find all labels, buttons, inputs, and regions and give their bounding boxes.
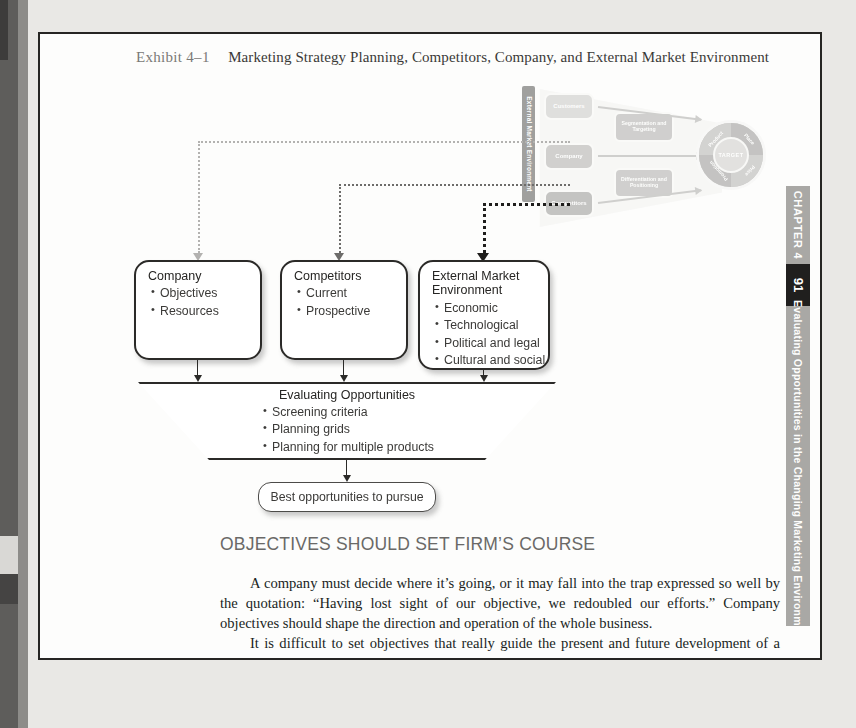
paragraph: A company must decide where it’s going, … bbox=[220, 574, 780, 634]
node-external-title: External Market Environment bbox=[420, 262, 548, 299]
chapter-tab-top: CHAPTER 4 bbox=[786, 186, 810, 264]
connector-company-horizontal bbox=[198, 141, 570, 143]
running-title-tab: Evaluating Opportunities in the Changing… bbox=[786, 306, 810, 626]
node-company[interactable]: Company Objectives Resources bbox=[134, 260, 262, 360]
list-item: Objectives bbox=[160, 285, 260, 303]
exhibit-label: Exhibit 4–1 bbox=[136, 49, 210, 65]
connector-competitors-vertical bbox=[339, 184, 341, 253]
hero-box-company: Company bbox=[544, 143, 594, 170]
list-item: Cultural and social bbox=[444, 352, 548, 370]
list-item: Political and legal bbox=[444, 335, 548, 353]
running-title: Evaluating Opportunities in the Changing… bbox=[792, 300, 804, 632]
outcome-feed-arrow bbox=[343, 475, 351, 482]
node-external-market-environment[interactable]: External Market Environment Economic Tec… bbox=[418, 260, 550, 370]
connector-external-horizontal bbox=[483, 203, 570, 206]
book-edge-light-patch bbox=[0, 536, 18, 574]
funnel-list: Screening criteria Planning grids Planni… bbox=[260, 404, 434, 456]
funnel-title: Evaluating Opportunities bbox=[138, 388, 556, 402]
exhibit-title: Marketing Strategy Planning, Competitors… bbox=[228, 49, 769, 65]
list-item: Economic bbox=[444, 300, 548, 318]
node-external-title-line2: Environment bbox=[432, 283, 502, 297]
book-edge-dark-patch bbox=[0, 574, 18, 604]
connector-competitors-horizontal bbox=[339, 184, 570, 186]
funnel-feed-line-competitors bbox=[343, 360, 344, 375]
list-item: Prospective bbox=[306, 303, 406, 321]
outcome-feed-line bbox=[346, 460, 347, 475]
marketing-strategy-graphic: External Market Environment Customers Co… bbox=[522, 86, 774, 230]
funnel-feed-arrow-company bbox=[194, 375, 202, 382]
list-item: Current bbox=[306, 285, 406, 303]
book-edge-mid bbox=[18, 0, 28, 728]
node-competitors-list: Current Prospective bbox=[282, 285, 406, 320]
page-root: Exhibit 4–1 Marketing Strategy Planning,… bbox=[0, 0, 856, 728]
hero-box-customers: Customers bbox=[544, 93, 594, 120]
chapter-tab-label: CHAPTER 4 bbox=[792, 191, 804, 260]
hero-box-segmentation: Segmentation and Targeting bbox=[614, 112, 674, 142]
list-item: Resources bbox=[160, 303, 260, 321]
node-best-opportunities[interactable]: Best opportunities to pursue bbox=[258, 482, 436, 512]
book-page-sheet: Exhibit 4–1 Marketing Strategy Planning,… bbox=[38, 32, 822, 660]
target-ring: Product Place Promotion Price TARGET bbox=[696, 120, 766, 190]
list-item: Technological bbox=[444, 317, 548, 335]
node-company-list: Objectives Resources bbox=[136, 285, 260, 320]
section-heading: OBJECTIVES SHOULD SET FIRM’S COURSE bbox=[220, 534, 595, 555]
book-edge-corner bbox=[0, 0, 8, 60]
target-center-label: TARGET bbox=[713, 137, 749, 173]
list-item: Planning grids bbox=[272, 421, 434, 438]
funnel-feed-line-company bbox=[197, 360, 198, 375]
paragraph: It is difficult to set objectives that r… bbox=[220, 634, 780, 660]
list-item: Screening criteria bbox=[272, 404, 434, 421]
funnel-feed-arrow-external bbox=[480, 375, 488, 382]
book-edge-dark bbox=[0, 0, 18, 728]
funnel-feed-arrow-competitors bbox=[340, 375, 348, 382]
exhibit-caption: Exhibit 4–1 Marketing Strategy Planning,… bbox=[136, 48, 769, 66]
funnel-evaluating-opportunities[interactable]: Evaluating Opportunities Screening crite… bbox=[138, 382, 556, 460]
node-competitors-title: Competitors bbox=[282, 262, 406, 284]
node-company-title: Company bbox=[136, 262, 260, 284]
node-competitors[interactable]: Competitors Current Prospective bbox=[280, 260, 408, 360]
page-number: 91 bbox=[791, 278, 806, 292]
node-external-title-line1: External Market bbox=[432, 269, 520, 283]
node-external-list: Economic Technological Political and leg… bbox=[420, 300, 548, 370]
hero-arrow-middle bbox=[598, 155, 702, 157]
node-best-label: Best opportunities to pursue bbox=[259, 483, 435, 511]
funnel-content: Evaluating Opportunities Screening crite… bbox=[138, 382, 556, 460]
connector-company-vertical bbox=[198, 141, 200, 253]
section-body: A company must decide where it’s going, … bbox=[220, 574, 780, 660]
list-item: Planning for multiple products bbox=[272, 439, 434, 456]
external-environment-bar-label: External Market Environment bbox=[525, 96, 532, 191]
connector-external-vertical bbox=[483, 203, 486, 253]
